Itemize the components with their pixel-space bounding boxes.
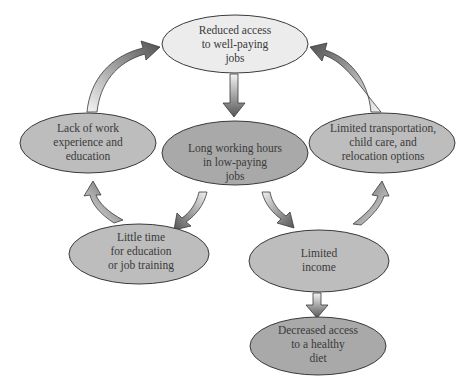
arrow-lack-to-reduced [87,41,160,112]
arrow-transport-to-reduced [310,43,381,112]
node-label: Lack of work [57,122,119,134]
node-label: Decreased access [278,324,359,336]
node-label: relocation options [342,150,425,163]
node-label: education [66,150,111,162]
node-label: experience and [53,136,123,149]
arrow-longhours-to-income [262,192,294,228]
node-limited-transport: Limited transportation, child care, and … [309,113,455,173]
node-label: diet [309,352,327,364]
node-label: jobs [224,170,245,183]
node-reduced-access: Reduced access to well-paying jobs [162,15,308,73]
arrow-reduced-to-longhours [223,74,245,117]
poverty-cycle-diagram: Reduced access to well-paying jobs Lack … [0,0,465,378]
node-little-time: Little time for education or job trainin… [69,224,209,284]
node-label: Limited transportation, [330,122,436,135]
arrow-income-to-transport [353,181,389,225]
node-label: in low-paying [203,156,267,169]
node-label: to a healthy [291,338,345,351]
node-label: child care, and [349,136,417,149]
node-long-hours: Long working hours in low-paying jobs [162,121,308,185]
node-label: Reduced access [199,24,272,36]
node-label: Limited [301,247,338,259]
node-lack-of-work: Lack of work experience and education [20,113,156,173]
node-label: to well-paying [202,38,269,51]
node-label: or job training [108,259,174,272]
node-label: for education [111,245,172,257]
node-limited-income: Limited income [249,230,389,292]
node-label: income [302,261,336,273]
arrow-longhours-to-littletime [174,192,207,230]
node-decreased-diet: Decreased access to a healthy diet [250,317,386,375]
arrow-littletime-to-lack [84,181,123,223]
node-label: Long working hours [188,142,282,155]
arrow-income-to-diet [306,293,328,318]
node-label: Little time [117,231,165,243]
node-label: jobs [224,52,245,65]
